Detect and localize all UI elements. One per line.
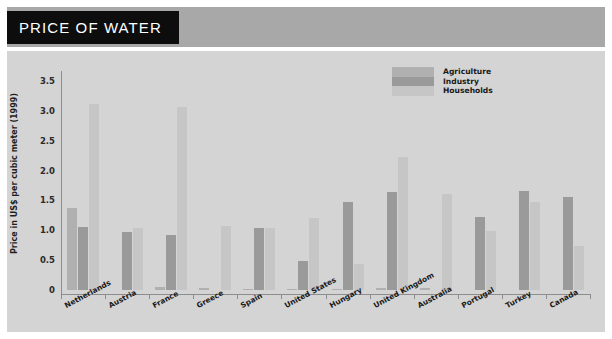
legend-item-industry: Industry (443, 77, 493, 87)
x-axis-label: Canada (548, 287, 580, 309)
chart-panel: Price in US$ per cubic meter (1999) 00.5… (7, 51, 605, 332)
bar-households (530, 202, 540, 290)
x-tick-mark (237, 294, 238, 299)
bar-households (442, 194, 452, 290)
bar-group (193, 75, 237, 290)
page-title: PRICE OF WATER (7, 19, 162, 36)
bar-group (149, 75, 193, 290)
bar-households (486, 231, 496, 290)
plot-area (61, 75, 590, 290)
bar-industry (475, 217, 485, 290)
bar-group (237, 75, 281, 290)
x-tick-mark (326, 294, 327, 299)
bar-industry (343, 202, 353, 290)
bar-group (370, 75, 414, 290)
bar-agriculture (243, 289, 253, 290)
x-axis-label: France (151, 289, 180, 310)
bar-industry (254, 228, 264, 290)
legend-item-households: Households (443, 86, 493, 96)
x-axis-label: Austria (107, 288, 138, 310)
y-tick-label: 0.5 (40, 255, 55, 265)
bar-group (326, 75, 370, 290)
bar-households (89, 104, 99, 290)
bar-agriculture (287, 289, 297, 290)
bar-group (546, 75, 590, 290)
y-tick-label: 0 (49, 285, 55, 295)
bar-agriculture (332, 289, 342, 290)
bar-agriculture (376, 288, 386, 290)
y-axis-ticks: 00.51.01.52.02.53.03.5 (7, 51, 55, 332)
legend-swatch-industry (392, 77, 434, 87)
chart-page: PRICE OF WATER Price in US$ per cubic me… (0, 0, 612, 339)
bar-households (309, 218, 319, 290)
bar-agriculture (420, 288, 430, 290)
bar-group (502, 75, 546, 290)
bar-group (281, 75, 325, 290)
bar-agriculture (155, 287, 165, 290)
bar-industry (78, 227, 88, 290)
x-tick-mark (105, 294, 106, 299)
bar-households (177, 107, 187, 290)
y-tick-label: 1.0 (40, 225, 55, 235)
y-tick-label: 3.5 (40, 76, 55, 86)
title-block: PRICE OF WATER (7, 11, 179, 44)
bar-households (133, 228, 143, 290)
bar-industry (563, 197, 573, 290)
legend-labels: Agriculture Industry Households (443, 67, 493, 96)
x-tick-mark (458, 294, 459, 299)
x-tick-mark (193, 294, 194, 299)
bar-industry (519, 191, 529, 290)
bar-households (265, 228, 275, 290)
x-axis-label: Turkey (504, 289, 533, 310)
x-tick-mark (370, 294, 371, 299)
x-axis-label: Greece (195, 288, 225, 310)
x-tick-mark (281, 294, 282, 299)
x-tick-mark (61, 294, 62, 299)
legend-swatch-households (392, 86, 434, 96)
legend-swatch (392, 67, 434, 96)
x-tick-mark (546, 294, 547, 299)
x-tick-mark (149, 294, 150, 299)
y-tick-label: 2.0 (40, 166, 55, 176)
y-tick-label: 1.5 (40, 195, 55, 205)
bar-households (398, 157, 408, 290)
bar-industry (298, 261, 308, 290)
bar-households (221, 226, 231, 291)
bar-industry (387, 192, 397, 290)
bar-agriculture (67, 208, 77, 290)
y-tick-label: 2.5 (40, 136, 55, 146)
bar-industry (122, 232, 132, 290)
x-tick-mark (414, 294, 415, 299)
x-tick-mark (502, 294, 503, 299)
y-tick-label: 3.0 (40, 106, 55, 116)
bar-agriculture (199, 288, 209, 290)
bar-group (414, 75, 458, 290)
bar-industry (166, 235, 176, 290)
chart-legend: Agriculture Industry Households (392, 67, 493, 96)
x-tick-mark (590, 294, 591, 299)
legend-swatch-agriculture (392, 67, 434, 77)
bar-group (61, 75, 105, 290)
bar-group (458, 75, 502, 290)
legend-item-agriculture: Agriculture (443, 67, 493, 77)
bar-group (105, 75, 149, 290)
bar-households (574, 246, 584, 290)
